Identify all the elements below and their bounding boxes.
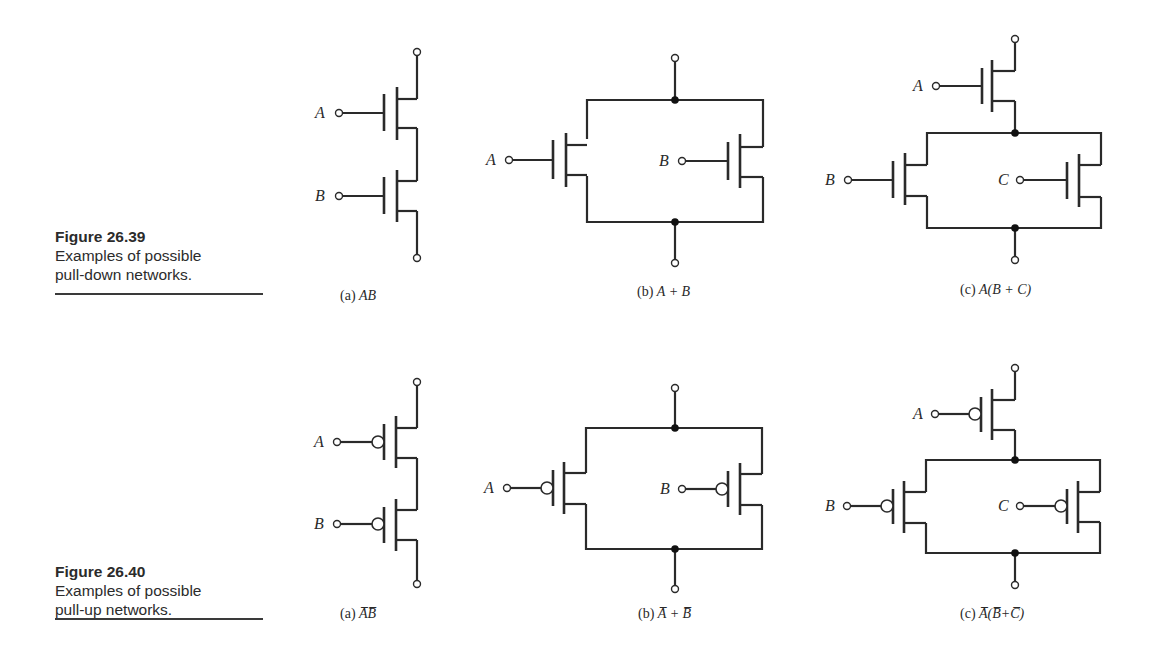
circuit-caption: (b) A̅ + B̅ [638,606,692,622]
circuit-caption: (a) A̅B̅ [340,606,377,622]
supply-terminal [1012,365,1019,372]
circuit-caption: (c) A̅(B̅+C̅) [960,606,1025,622]
circuit-26-40-b: A B (b) A̅ + B̅ [483,385,762,623]
supply-terminal [414,379,421,386]
circuit-26-40-c: A B C (c) A̅(B̅+C̅) [825,365,1100,623]
junction-dot [1011,456,1019,464]
input-label-b: B [315,187,325,204]
circuit-caption: (c) A(B + C) [960,282,1032,298]
input-label-a: A [313,433,324,450]
circuit-diagrams: A B (a) AB A B [0,0,1149,655]
supply-terminal [672,385,679,392]
circuit-26-40-a: A B (a) A̅B̅ [313,379,421,623]
input-terminal-a [506,157,513,164]
circuit-caption: (b) A + B [637,284,691,300]
ground-terminal [1012,257,1019,264]
circuit-26-39-a: A B (a) AB [314,49,421,305]
output-terminal [1012,36,1019,43]
input-terminal-c [1017,177,1024,184]
ground-terminal [672,260,679,267]
input-label-c: C [998,497,1009,514]
junction-dot [671,96,679,104]
input-label-a: A [485,151,496,168]
output-terminal [1012,582,1019,589]
input-terminal-b [679,158,686,165]
junction-dot [671,545,679,553]
ground-terminal [414,255,421,262]
junction-dot [1011,129,1019,137]
input-terminal-a [336,110,343,117]
input-label-a: A [314,104,325,121]
input-label-a: A [912,405,923,422]
input-terminal-a [932,411,939,418]
pmos-bubble [881,500,893,512]
pmos-bubble [1055,500,1067,512]
junction-dot [671,424,679,432]
pmos-bubble [541,482,553,494]
input-label-b: B [659,152,669,169]
pmos-bubble [372,518,384,530]
input-label-b: B [825,497,835,514]
pmos-bubble [969,408,981,420]
circuit-26-39-c: A B C (c) A(B + C) [825,36,1101,299]
input-terminal-b [336,193,343,200]
input-terminal-b [845,177,852,184]
input-terminal-c [1017,503,1024,510]
pmos-bubble [716,483,728,495]
junction-dot [1011,549,1019,557]
output-terminal [414,581,421,588]
input-terminal-a [933,83,940,90]
junction-dot [671,218,679,226]
pmos-bubble [372,436,384,448]
output-terminal [672,586,679,593]
input-label-b: B [825,171,835,188]
output-terminal [414,49,421,56]
input-label-c: C [998,171,1009,188]
circuit-caption: (a) AB [340,288,377,304]
input-terminal-a [504,485,511,492]
junction-dot [1011,224,1019,232]
output-terminal [672,55,679,62]
input-label-a: A [912,77,923,94]
input-terminal-b [679,486,686,493]
input-label-b: B [314,515,324,532]
input-terminal-b [334,521,341,528]
input-label-b: B [660,480,670,497]
input-terminal-a [334,439,341,446]
circuit-26-39-b: A B (b) A + B [485,55,763,301]
input-label-a: A [483,479,494,496]
input-terminal-b [844,503,851,510]
